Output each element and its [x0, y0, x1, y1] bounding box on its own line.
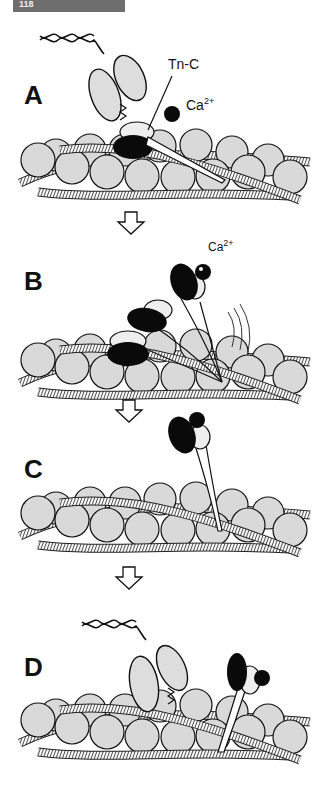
arrow-a-to-b: [118, 212, 144, 234]
panel-d-diagram: [20, 620, 310, 760]
myosin-tail-a: [40, 38, 104, 54]
panel-b-diagram: [20, 260, 310, 400]
panel-c-diagram: [20, 412, 310, 553]
arrow-c-to-d: [116, 567, 142, 589]
panel-label-d: D: [24, 652, 43, 683]
troponin-dark-d: [227, 653, 247, 691]
calcium-label-a: Ca2+: [186, 96, 214, 113]
panel-label-a: A: [24, 80, 43, 111]
calcium-ion-a: [164, 106, 180, 122]
calcium-ion-b: [195, 264, 211, 280]
calcium-ion-d: [254, 670, 270, 686]
actin-filament-d: [20, 689, 310, 760]
actin-filament-b: [20, 329, 310, 400]
panel-a-diagram: [20, 34, 310, 200]
troponin-dark-b1: [107, 342, 149, 366]
calcium-ion-c: [189, 412, 205, 428]
diagram-canvas: [0, 0, 329, 787]
actin-filament-c: [20, 482, 310, 553]
actin-filament-a: [20, 129, 310, 200]
panel-label-c: C: [24, 454, 43, 485]
arrow-b-to-c: [116, 400, 142, 422]
calcium-label-b: Ca2+: [208, 238, 234, 254]
tnc-label: Tn-C: [168, 56, 199, 72]
tnc-pointer-line: [148, 76, 172, 130]
panel-label-b: B: [24, 266, 43, 297]
